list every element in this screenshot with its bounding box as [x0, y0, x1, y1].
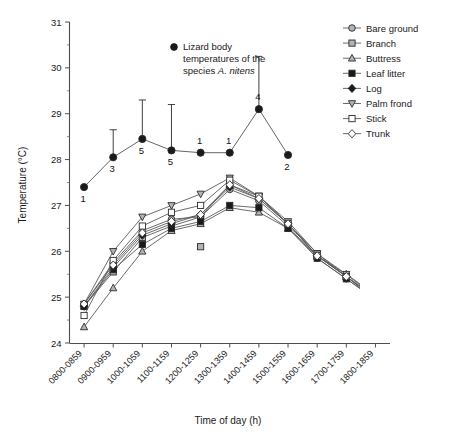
series-point	[256, 205, 262, 211]
y-tick-label: 29	[51, 108, 62, 119]
legend-item-palm-frond: Palm frond	[343, 98, 412, 109]
series-leaf-litter	[81, 202, 379, 309]
lizard-point	[284, 151, 291, 158]
sample-size-label: 1	[80, 193, 85, 204]
annotation-block: Lizard body temperatures of the species …	[171, 41, 266, 76]
series-trunk	[80, 181, 379, 308]
lizard-point	[197, 149, 204, 156]
series-buttress	[80, 204, 379, 330]
legend-item-branch: Branch	[343, 38, 396, 49]
lizard-point	[255, 106, 262, 113]
series-point	[372, 293, 380, 301]
lizard-line	[84, 109, 288, 187]
series-stick	[81, 177, 379, 318]
series-palm-frond	[80, 175, 379, 308]
lizard-point	[139, 135, 146, 142]
series-point	[168, 209, 174, 215]
legend-label: Branch	[366, 38, 396, 49]
series-point	[372, 296, 378, 302]
annotation-line-3: species A. nitens	[183, 65, 255, 76]
y-axis: 2425262728293031 Temperature (°C)	[17, 17, 70, 349]
sample-size-label: 5	[139, 145, 144, 156]
sample-size-label: 1	[197, 135, 202, 146]
series-point	[197, 191, 204, 198]
legend-item-trunk: Trunk	[343, 128, 390, 139]
annotation-species-name: A. nitens	[217, 65, 255, 76]
annotation-line-3-prefix: species	[183, 65, 218, 76]
series-point	[139, 241, 145, 247]
legend-marker-icon	[348, 84, 356, 92]
y-axis-ticks: 2425262728293031	[51, 17, 70, 349]
series-point	[110, 248, 117, 255]
series-line	[84, 205, 375, 306]
y-tick-label: 31	[51, 17, 62, 28]
series-point	[168, 203, 175, 210]
series-point	[81, 312, 87, 318]
y-tick-label: 27	[51, 200, 62, 211]
legend-item-leaf-litter: Leaf litter	[343, 68, 405, 79]
y-axis-title: Temperature (°C)	[17, 147, 28, 224]
legend-item-log: Log	[343, 83, 382, 94]
series-point	[372, 294, 379, 301]
chart-svg: 2425262728293031 Temperature (°C) 0800-0…	[0, 0, 467, 437]
lizard-point	[80, 183, 87, 190]
annotation-line-1: Lizard body	[183, 41, 232, 52]
outlier-points-layer	[198, 244, 204, 250]
legend-label: Palm frond	[366, 98, 412, 109]
lizard-point	[226, 149, 233, 156]
sample-size-label: 4	[255, 91, 260, 102]
y-tick-label: 26	[51, 246, 62, 257]
legend-label: Buttress	[366, 53, 401, 64]
legend-marker-icon	[349, 116, 355, 122]
legend-item-stick: Stick	[343, 113, 387, 124]
y-tick-label: 25	[51, 292, 62, 303]
series-line	[84, 180, 375, 315]
sample-size-label: 3	[110, 163, 115, 174]
legend-marker-icon	[348, 54, 355, 61]
annotation-line-2: temperatures of the	[183, 53, 265, 64]
legend-item-buttress: Buttress	[343, 53, 401, 64]
legend-marker-icon	[349, 40, 355, 46]
x-axis-title: Time of day (h)	[195, 415, 262, 426]
series-point	[139, 247, 146, 254]
legend-marker-icon	[348, 101, 355, 108]
legend-label: Trunk	[366, 128, 390, 139]
x-axis: 0800-08590900-09591000-10591100-11591200…	[46, 343, 390, 426]
series-point	[372, 296, 378, 302]
series-point	[198, 202, 204, 208]
y-tick-label: 30	[51, 62, 62, 73]
x-axis-tick-labels: 0800-08590900-09591000-10591100-11591200…	[46, 348, 375, 386]
outlier-point	[198, 244, 204, 250]
lizard-point	[110, 154, 117, 161]
legend-label: Leaf litter	[366, 68, 405, 79]
lizard-series-layer: 13551142	[80, 56, 291, 204]
series-line	[84, 208, 375, 327]
series-point	[227, 202, 233, 208]
legend-label: Stick	[366, 113, 387, 124]
sample-size-label: 2	[284, 161, 289, 172]
y-tick-label: 28	[51, 154, 62, 165]
chart-figure: 2425262728293031 Temperature (°C) 0800-0…	[0, 0, 467, 437]
sample-size-label: 5	[168, 156, 173, 167]
series-point	[372, 295, 380, 303]
sample-size-label: 1	[226, 135, 231, 146]
series-point	[372, 291, 379, 298]
series-line	[84, 178, 375, 304]
legend-marker-icon	[349, 70, 355, 76]
legend-marker-icon	[349, 25, 356, 32]
legend-item-bare-ground: Bare ground	[343, 23, 418, 34]
substrate-series-layer	[80, 175, 379, 330]
y-tick-label: 24	[51, 338, 62, 349]
lizard-legend-marker-icon	[171, 44, 178, 51]
lizard-point	[168, 147, 175, 154]
legend-marker-icon	[348, 130, 356, 138]
series-point	[372, 296, 379, 303]
legend-label: Bare ground	[366, 23, 418, 34]
series-point	[372, 294, 378, 300]
legend: Bare groundBranchButtressLeaf litterLogP…	[343, 23, 418, 140]
legend-label: Log	[366, 83, 382, 94]
